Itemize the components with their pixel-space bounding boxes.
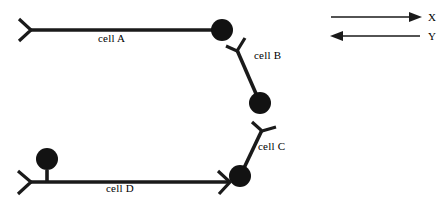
cell-b-soma bbox=[249, 92, 271, 114]
cell-c-soma bbox=[229, 165, 251, 187]
cell-d-soma bbox=[36, 148, 58, 170]
cell-c-dendrite-fork-icon bbox=[252, 122, 276, 131]
cell-a-group bbox=[19, 19, 233, 41]
diagram-canvas: cell A cell B cell C cell D X Y bbox=[0, 0, 443, 212]
cell-d-dendrite-fork-icon bbox=[18, 171, 31, 194]
cell-chain-diagram bbox=[0, 0, 443, 212]
cell-b-label: cell B bbox=[254, 49, 281, 61]
cell-a-soma bbox=[211, 19, 233, 41]
legend-axis-x-arrowhead-icon bbox=[409, 12, 422, 22]
cell-c-group bbox=[229, 122, 276, 187]
legend-axis-x-label: X bbox=[428, 11, 436, 23]
cell-b-dendrite-fork-icon bbox=[226, 38, 245, 51]
cell-a-label: cell A bbox=[98, 32, 125, 44]
legend-axis-y-arrowhead-icon bbox=[330, 31, 343, 41]
cell-d-label: cell D bbox=[106, 182, 134, 194]
cell-c-label: cell C bbox=[258, 140, 285, 152]
legend-axis-y-label: Y bbox=[428, 30, 436, 42]
legend-axis-y-arrow bbox=[330, 31, 420, 41]
cell-a-dendrite-fork-icon bbox=[19, 19, 31, 41]
legend-axis-x-arrow bbox=[331, 12, 422, 22]
